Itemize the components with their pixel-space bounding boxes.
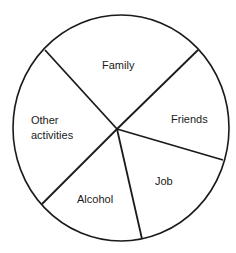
- slice-label-friends: Friends: [171, 112, 208, 127]
- slice-label-alcohol: Alcohol: [77, 192, 113, 207]
- slice-label-job: Job: [155, 174, 173, 189]
- slice-label-other-line2: activities: [31, 128, 73, 143]
- slice-label-other-activities: Other activities: [31, 113, 73, 143]
- slice-label-other-line1: Other: [31, 113, 73, 128]
- slice-label-family: Family: [102, 58, 134, 73]
